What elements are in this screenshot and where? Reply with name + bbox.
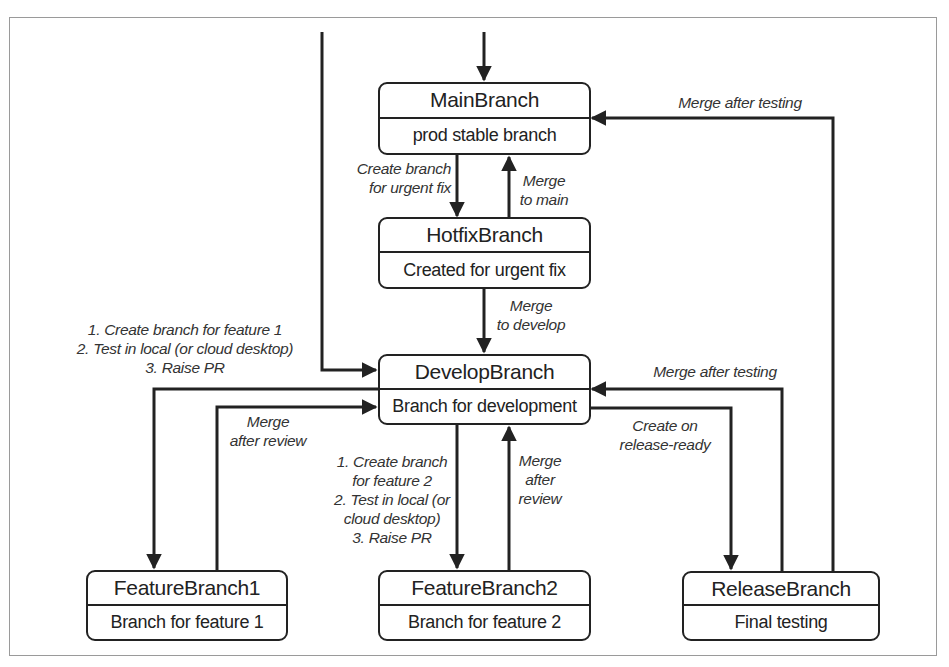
node-desc: Created for urgent fix bbox=[380, 253, 589, 287]
node-desc: prod stable branch bbox=[380, 119, 589, 154]
node-desc: Branch for feature 1 bbox=[88, 606, 286, 640]
node-desc: Final testing bbox=[684, 606, 878, 639]
label-release-to-develop: Merge after testing bbox=[640, 362, 790, 381]
label-develop-to-feature1: 1. Create branch for feature 1 2. Test i… bbox=[60, 320, 310, 377]
node-title: HotfixBranch bbox=[380, 219, 589, 253]
node-feature-branch-1: FeatureBranch1 Branch for feature 1 bbox=[86, 570, 288, 641]
node-desc: Branch for development bbox=[380, 390, 589, 424]
node-title: FeatureBranch1 bbox=[88, 572, 286, 606]
node-desc: Branch for feature 2 bbox=[380, 606, 589, 640]
node-develop-branch: DevelopBranch Branch for development bbox=[378, 354, 591, 425]
label-feature2-to-develop: Merge after review bbox=[514, 451, 566, 508]
label-hotfix-to-develop: Merge to develop bbox=[490, 296, 572, 334]
node-title: FeatureBranch2 bbox=[380, 572, 589, 606]
label-release-to-main: Merge after testing bbox=[660, 93, 820, 112]
edge-release-to-main bbox=[592, 118, 833, 571]
node-main-branch: MainBranch prod stable branch bbox=[378, 82, 591, 155]
label-develop-to-feature2: 1. Create branch for feature 2 2. Test i… bbox=[328, 452, 456, 547]
node-feature-branch-2: FeatureBranch2 Branch for feature 2 bbox=[378, 570, 591, 641]
label-develop-to-release: Create on release-ready bbox=[610, 416, 720, 454]
label-main-to-hotfix: Create branch for urgent fix bbox=[345, 159, 451, 197]
label-hotfix-to-main: Merge to main bbox=[514, 171, 574, 209]
label-feature1-to-develop: Merge after review bbox=[218, 412, 318, 450]
node-hotfix-branch: HotfixBranch Created for urgent fix bbox=[378, 217, 591, 289]
node-title: ReleaseBranch bbox=[684, 573, 878, 606]
node-title: MainBranch bbox=[380, 84, 589, 119]
node-title: DevelopBranch bbox=[380, 356, 589, 390]
node-release-branch: ReleaseBranch Final testing bbox=[682, 571, 880, 641]
edge-entry-develop bbox=[322, 32, 376, 370]
